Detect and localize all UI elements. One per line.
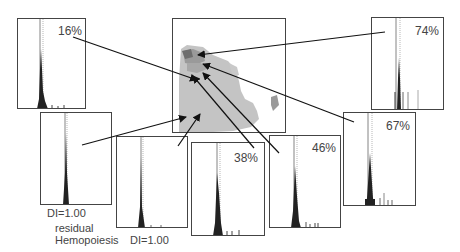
percent-label: 16% (58, 24, 82, 38)
histogram-panel-46: 46% (269, 135, 341, 228)
residual-label: residual (55, 222, 94, 234)
central-tissue-image (172, 18, 286, 133)
percent-label: 46% (312, 141, 336, 155)
histogram-panel-di-left (40, 112, 112, 205)
di-caption-left: DI=1.00 (47, 207, 86, 219)
percent-label: 67% (386, 119, 410, 133)
dna-histogram (117, 137, 188, 228)
histogram-panel-74: 74% (371, 17, 444, 110)
percent-label: 38% (234, 151, 258, 165)
di-caption-center: DI=1.00 (130, 234, 169, 246)
dna-histogram (41, 113, 112, 205)
hemopoiesis-label: Hemopoiesis (55, 234, 119, 246)
percent-label: 74% (415, 24, 439, 38)
histogram-panel-67: 67% (343, 112, 416, 206)
tissue-map-graphic (173, 19, 286, 133)
histogram-panel-16: 16% (17, 18, 86, 109)
histogram-panel-38: 38% (191, 142, 265, 236)
histogram-panel-di-center (116, 136, 188, 228)
